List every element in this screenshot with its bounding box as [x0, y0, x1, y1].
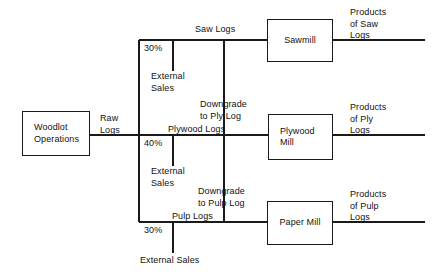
node-paper-mill[interactable]: Paper Mill — [267, 201, 333, 245]
edge-label-pulp-external-sales: External Sales — [140, 255, 199, 267]
node-plywood-mill-label: Plywood Mill — [269, 126, 315, 149]
edge-label-plywood-logs: Plywood Logs — [168, 124, 225, 136]
edge-label-downgrade-to-pulp: Downgrade to Pulp Log — [198, 186, 245, 209]
edge-label-saw-products: Products of Saw Logs — [350, 7, 386, 42]
node-plywood-mill[interactable]: Plywood Mill — [268, 114, 333, 160]
edge-label-pulp-products: Products of Pulp Logs — [350, 189, 386, 224]
node-paper-mill-label: Paper Mill — [279, 217, 320, 229]
edge-label-raw-logs: Raw Logs — [100, 113, 120, 136]
node-sawmill[interactable]: Sawmill — [267, 19, 333, 62]
edge-label-pulp-logs: Pulp Logs — [172, 211, 213, 223]
edge-label-saw-external-sales: External Sales — [151, 71, 185, 94]
edge-label-pulp-percent: 30% — [144, 225, 162, 237]
edge-label-ply-products: Products of Ply Logs — [350, 102, 386, 137]
edge-label-saw-percent: 30% — [144, 43, 162, 55]
edge-label-ply-percent: 40% — [144, 138, 162, 150]
edge-label-ply-external-sales: External Sales — [151, 166, 185, 189]
node-woodlot-operations-label: Woodlot Operations — [23, 122, 79, 145]
edge-label-saw-logs: Saw Logs — [195, 24, 235, 36]
edge-label-downgrade-to-ply: Downgrade to Ply Log — [200, 99, 247, 122]
node-sawmill-label: Sawmill — [284, 35, 316, 47]
flow-diagram: Woodlot Operations Sawmill Plywood Mill … — [0, 0, 440, 280]
node-woodlot-operations[interactable]: Woodlot Operations — [22, 111, 90, 156]
